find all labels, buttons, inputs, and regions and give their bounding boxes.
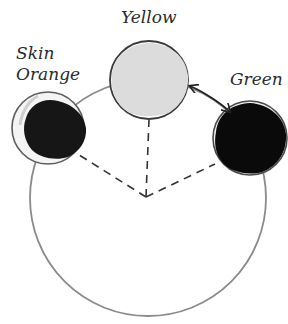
dashed-line-skin-orange xyxy=(76,153,146,197)
yellow-paint-fill xyxy=(112,43,188,116)
label-yellow: Yellow xyxy=(121,7,176,27)
swatch-skin-orange xyxy=(12,92,86,164)
dashed-line-yellow xyxy=(146,120,149,197)
label-skin: Skin xyxy=(16,43,54,63)
dashed-connectors xyxy=(76,120,215,197)
dashed-line-green xyxy=(146,164,215,197)
green-paint-fill xyxy=(215,103,286,174)
swatch-yellow xyxy=(110,41,188,119)
swatch-green xyxy=(213,101,287,175)
label-orange: Orange xyxy=(16,64,80,84)
label-green: Green xyxy=(230,69,283,89)
